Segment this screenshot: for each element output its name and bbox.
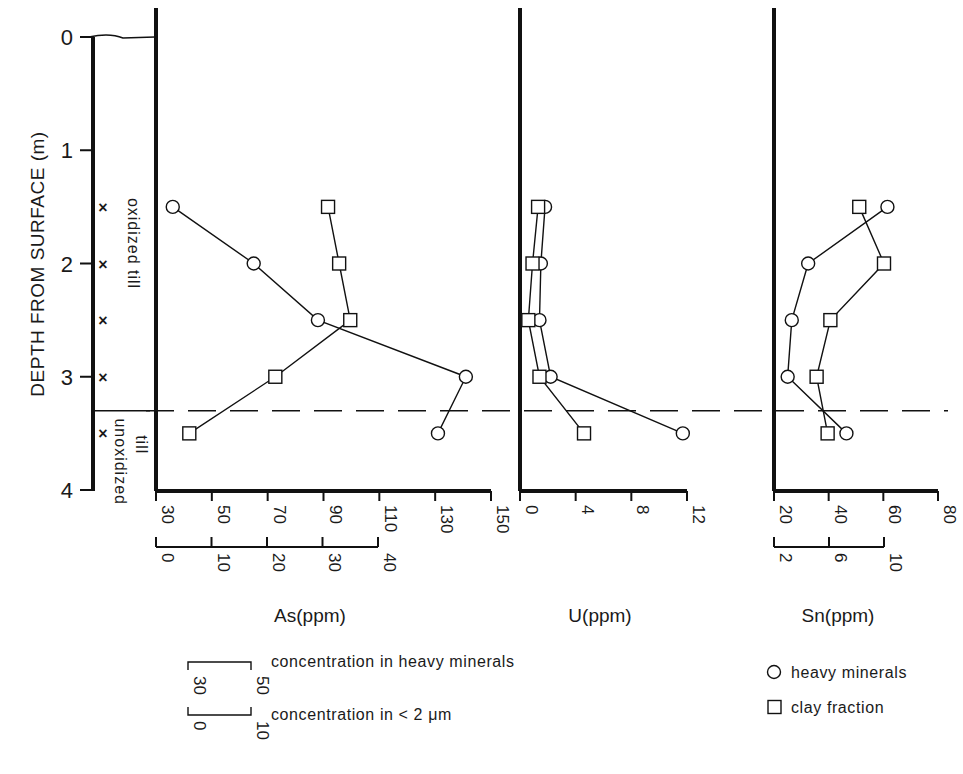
x-tick-label: 150 xyxy=(493,505,512,533)
heavy-minerals-point xyxy=(676,427,689,440)
x-tick-label: 70 xyxy=(270,505,289,524)
depth-tick-label: 1 xyxy=(61,138,73,163)
clay-fraction-point xyxy=(183,427,196,440)
panels: 30507090110130150010203040As(ppm)04812U(… xyxy=(156,8,959,626)
x-tick-label: 60 xyxy=(885,505,904,524)
scale-key-bracket xyxy=(188,662,251,670)
clay-x-tick-label: 6 xyxy=(831,553,850,562)
heavy-minerals-point xyxy=(785,314,798,327)
unoxidized-till-label-2: till xyxy=(133,435,150,454)
clay-fraction-point xyxy=(333,257,346,270)
y-axis-title: DEPTH FROM SURFACE (m) xyxy=(27,131,48,396)
x-tick-label: 0 xyxy=(522,505,541,514)
scale-key-text: concentration in heavy minerals xyxy=(271,653,515,670)
x-tick-label: 8 xyxy=(633,505,652,514)
heavy-minerals-point xyxy=(431,427,444,440)
clay-x-tick-label: 20 xyxy=(269,553,288,572)
panel-as: 30507090110130150010203040As(ppm) xyxy=(156,8,512,626)
heavy-minerals-point xyxy=(881,200,894,213)
clay-fraction-point xyxy=(853,200,866,213)
legend: 3050concentration in heavy minerals010co… xyxy=(188,653,907,740)
depth-tick-label: 2 xyxy=(61,252,73,277)
series-line-heavy-minerals xyxy=(539,207,682,434)
clay-fraction-point xyxy=(533,370,546,383)
x-tick-label: 50 xyxy=(214,505,233,524)
scale-key-from: 30 xyxy=(190,676,209,695)
x-tick-label: 90 xyxy=(326,505,345,524)
scale-key-text: concentration in < 2 μm xyxy=(271,706,452,723)
clay-fraction-point xyxy=(878,257,891,270)
panel-u: 04812U(ppm) xyxy=(520,8,708,626)
clay-x-tick-label: 10 xyxy=(886,553,905,572)
heavy-minerals-point xyxy=(802,257,815,270)
clay-fraction-point xyxy=(578,427,591,440)
x-tick-label: 130 xyxy=(437,505,456,533)
sample-x-marker: × xyxy=(98,312,107,329)
clay-fraction-point xyxy=(522,314,535,327)
depth-column: 01234×××××oxidized tillunoxidizedtill xyxy=(61,25,155,505)
sample-x-marker: × xyxy=(98,425,107,442)
heavy-minerals-point xyxy=(459,370,472,383)
clay-x-tick-label: 10 xyxy=(214,553,233,572)
scale-key-to: 10 xyxy=(253,721,272,740)
legend-circle-icon xyxy=(768,666,781,679)
legend-square-icon xyxy=(768,701,781,714)
clay-fraction-point xyxy=(810,370,823,383)
clay-fraction-point xyxy=(532,200,545,213)
x-tick-label: 30 xyxy=(158,505,177,524)
sample-x-marker: × xyxy=(98,199,107,216)
legend-symbol-label: heavy minerals xyxy=(791,664,907,681)
clay-x-tick-label: 30 xyxy=(325,553,344,572)
clay-fraction-point xyxy=(821,427,834,440)
clay-fraction-point xyxy=(824,314,837,327)
oxidized-till-label: oxidized till xyxy=(125,198,142,289)
scale-key-to: 50 xyxy=(253,676,272,695)
unoxidized-till-label: unoxidized xyxy=(112,418,129,505)
scale-key-from: 0 xyxy=(190,721,209,730)
ground-surface-line xyxy=(89,35,155,38)
scale-key-bracket xyxy=(188,707,251,715)
x-axis-title: Sn(ppm) xyxy=(802,605,875,626)
x-tick-label: 110 xyxy=(381,505,400,532)
depth-tick-label: 0 xyxy=(61,25,73,50)
legend-symbol-label: clay fraction xyxy=(791,699,884,716)
x-tick-label: 80 xyxy=(940,505,959,524)
heavy-minerals-point xyxy=(781,370,794,383)
clay-x-tick-label: 0 xyxy=(158,553,177,562)
depth-tick-label: 3 xyxy=(61,365,73,390)
heavy-minerals-point xyxy=(247,257,260,270)
heavy-minerals-point xyxy=(166,200,179,213)
x-tick-label: 20 xyxy=(776,505,795,524)
depth-profile-chart: DEPTH FROM SURFACE (m) 01234×××××oxidize… xyxy=(0,0,963,774)
panel-sn: 204060802610Sn(ppm) xyxy=(774,8,959,626)
clay-fraction-point xyxy=(269,370,282,383)
heavy-minerals-point xyxy=(311,314,324,327)
sample-x-marker: × xyxy=(98,256,107,273)
x-tick-label: 4 xyxy=(578,505,597,514)
clay-fraction-point xyxy=(526,257,539,270)
x-tick-label: 12 xyxy=(689,505,708,524)
clay-x-tick-label: 2 xyxy=(776,553,795,562)
heavy-minerals-point xyxy=(840,427,853,440)
clay-fraction-point xyxy=(322,200,335,213)
x-axis-title: U(ppm) xyxy=(568,605,631,626)
clay-fraction-point xyxy=(344,314,357,327)
series-line-clay-fraction xyxy=(189,207,350,434)
x-tick-label: 40 xyxy=(831,505,850,524)
depth-tick-label: 4 xyxy=(61,478,73,503)
x-axis-title: As(ppm) xyxy=(274,605,346,626)
clay-x-tick-label: 40 xyxy=(380,553,399,572)
sample-x-marker: × xyxy=(98,369,107,386)
